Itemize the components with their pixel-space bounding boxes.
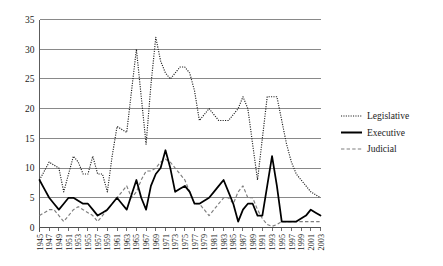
y-axis-tick-label: 0: [30, 223, 35, 233]
x-axis-tick-label: 1991: [258, 234, 267, 250]
x-axis-tick-label: 1983: [220, 234, 229, 250]
line-chart: 05101520253035 1945194719491951195319551…: [0, 0, 443, 266]
y-axis-tick-label: 30: [25, 45, 35, 55]
y-axis-tick-label: 15: [25, 134, 35, 144]
y-axis-tick-label: 20: [25, 104, 35, 114]
x-axis-tick-label: 1987: [239, 234, 248, 250]
x-axis-tick-label: 1965: [132, 234, 141, 250]
x-axis-tick-label: 1971: [162, 234, 171, 250]
x-axis-tick-label: 1953: [74, 234, 83, 250]
y-axis-tick-label: 25: [25, 74, 35, 84]
x-axis-tick-label: 1967: [142, 234, 151, 250]
chart-legend: LegislativeExecutiveJudicial: [341, 111, 409, 154]
legend-label-judicial: Judicial: [367, 144, 397, 154]
series-line-executive: [40, 150, 321, 221]
x-axis-tick-labels: 1945194719491951195319551957195919611963…: [36, 234, 326, 250]
series-line-legislative: [40, 37, 321, 197]
chart-container: 05101520253035 1945194719491951195319551…: [0, 0, 443, 266]
x-axis-tick-label: 1981: [210, 234, 219, 250]
x-axis-tick-label: 1999: [297, 234, 306, 250]
x-axis-tick-label: 1945: [36, 234, 45, 250]
x-axis-tick-label: 1959: [103, 234, 112, 250]
y-axis-tick-label: 35: [25, 15, 35, 25]
x-axis-tick-label: 1969: [152, 234, 161, 250]
x-axis-tick-label: 2001: [307, 234, 316, 250]
x-axis-tick-label: 2003: [317, 234, 326, 250]
x-axis-tick-label: 1977: [191, 234, 200, 250]
x-axis-tick-label: 1995: [278, 234, 287, 250]
x-axis-tick-label: 1985: [229, 234, 238, 250]
x-axis-tick-label: 1955: [84, 234, 93, 250]
y-axis-tick-labels: 05101520253035: [25, 15, 35, 233]
x-axis-tick-label: 1957: [94, 234, 103, 250]
x-axis-tick-label: 1947: [45, 234, 54, 250]
x-axis-tick-label: 1989: [249, 234, 258, 250]
y-axis-tick-label: 10: [25, 163, 35, 173]
legend-label-executive: Executive: [367, 128, 405, 138]
x-axis-tick-label: 1961: [113, 234, 122, 250]
x-axis-tickmarks: [40, 228, 321, 232]
legend-label-legislative: Legislative: [367, 111, 409, 121]
x-axis-tick-label: 1979: [200, 234, 209, 250]
x-axis-tick-label: 1951: [65, 234, 74, 250]
x-axis-tick-label: 1949: [55, 234, 64, 250]
x-axis-tick-label: 1993: [268, 234, 277, 250]
x-axis-tick-label: 1973: [171, 234, 180, 250]
y-axis-tick-label: 5: [30, 193, 35, 203]
x-axis-tick-label: 1997: [288, 234, 297, 250]
x-axis-tick-label: 1963: [123, 234, 132, 250]
x-axis-tick-label: 1975: [181, 234, 190, 250]
